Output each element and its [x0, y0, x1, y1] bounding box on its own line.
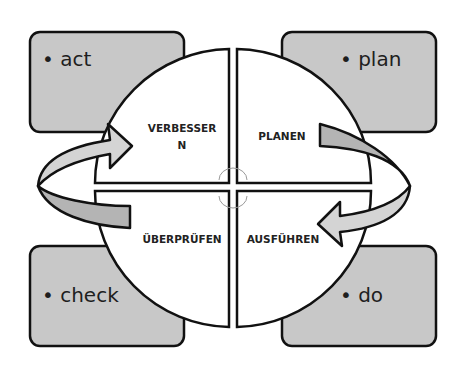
- label-ausfuehren: AUSFÜHREN: [247, 232, 319, 245]
- pdca-diagram: • act • plan • check • do VERBESSER N PL…: [0, 0, 466, 370]
- box-act-label: • act: [42, 47, 91, 71]
- box-do-label: • do: [340, 283, 383, 307]
- label-planen: PLANEN: [258, 130, 305, 142]
- label-verbessern-1: VERBESSER: [148, 122, 216, 134]
- label-ueberpruefen: ÜBERPRÜFEN: [142, 232, 221, 245]
- box-check-label: • check: [42, 283, 119, 307]
- label-verbessern-2: N: [178, 139, 187, 151]
- box-plan-label: • plan: [340, 47, 401, 71]
